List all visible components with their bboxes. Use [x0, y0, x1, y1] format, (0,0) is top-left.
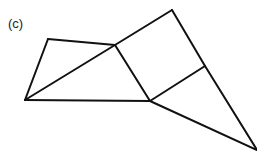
edge-BC — [48, 39, 115, 45]
edge-CE — [115, 45, 150, 101]
edge-EF — [150, 66, 205, 101]
edge-AC — [25, 45, 115, 100]
edge-AB — [25, 39, 48, 100]
geometric-figure — [0, 0, 257, 168]
diagram-canvas: (c) — [0, 0, 257, 168]
edge-AE — [25, 100, 150, 101]
edge-CD — [115, 10, 172, 45]
edge-DF — [172, 10, 205, 66]
